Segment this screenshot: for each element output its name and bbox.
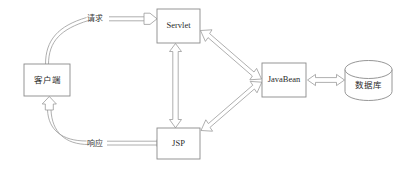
diagram-svg: 客户端 Servlet JSP JavaBean 数据库 请求 响应: [0, 0, 407, 173]
edge-label-response: 响应: [87, 138, 103, 148]
edge-jsp-javabean-arrow: [201, 81, 262, 131]
node-client-label: 客户端: [34, 75, 61, 85]
edge-label-request: 请求: [87, 13, 103, 23]
node-servlet-label: Servlet: [166, 20, 191, 30]
node-jsp-label: JSP: [172, 138, 185, 148]
node-database-label: 数据库: [355, 80, 382, 90]
node-javabean-label: JavaBean: [268, 74, 301, 84]
node-servlet[interactable]: Servlet: [157, 9, 200, 43]
edge-client-to-servlet-curve: [46, 18, 89, 65]
edge-servlet-javabean-arrow: [201, 30, 262, 80]
node-jsp[interactable]: JSP: [157, 128, 200, 159]
node-javabean[interactable]: JavaBean: [262, 63, 306, 97]
node-client[interactable]: 客户端: [24, 64, 70, 96]
edge-javabean-database-arrow: [308, 74, 345, 85]
edge-jsp-to-client-curve: [42, 97, 88, 145]
edge-request-arrow: [109, 13, 157, 24]
edge-response-line: [107, 140, 157, 147]
edge-servlet-jsp-arrow: [170, 44, 182, 128]
diagram-canvas: 客户端 Servlet JSP JavaBean 数据库 请求 响应: [0, 0, 407, 173]
node-database[interactable]: 数据库: [345, 61, 392, 101]
